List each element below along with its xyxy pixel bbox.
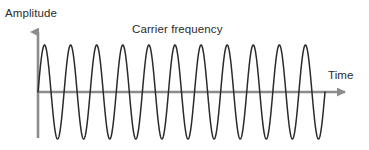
carrier-frequency-annotation: Carrier frequency xyxy=(132,23,223,36)
carrier-frequency-diagram: Amplitude Carrier frequency Time xyxy=(0,0,369,150)
y-axis-label: Amplitude xyxy=(5,7,57,20)
x-axis-label: Time xyxy=(328,69,354,82)
